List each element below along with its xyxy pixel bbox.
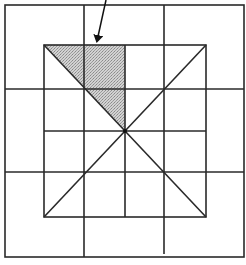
diagram-canvas <box>0 0 246 265</box>
grid-diagram <box>0 0 246 265</box>
pointer-arrow-icon <box>97 0 106 41</box>
center-point <box>123 129 127 133</box>
